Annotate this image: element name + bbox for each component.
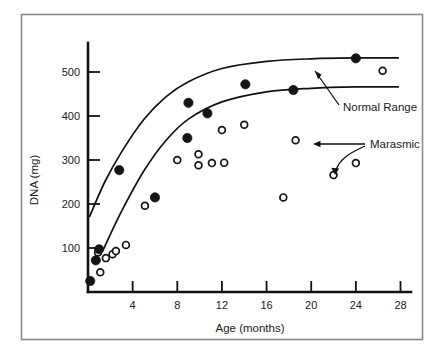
marasmic-data-point — [208, 160, 215, 167]
marasmic-data-point — [123, 242, 130, 249]
marasmic-data-point — [379, 67, 386, 74]
marasmic-data-point — [195, 151, 202, 158]
y-tick-label-300: 300 — [62, 154, 80, 166]
normal-data-point — [115, 166, 124, 175]
y-tick-label-400: 400 — [62, 110, 80, 122]
normal-data-point — [289, 85, 298, 94]
x-axis-title: Age (months) — [215, 322, 284, 334]
figure-root: 100200300400500 481216202428 DNA (mg) Ag… — [0, 0, 442, 352]
normal-data-point — [241, 80, 250, 89]
marasmic-data-point — [113, 248, 120, 255]
x-tick-label-20: 20 — [305, 299, 317, 311]
x-tick-label-12: 12 — [216, 299, 228, 311]
dna-vs-age-scatter-chart: 100200300400500 481216202428 DNA (mg) Ag… — [0, 0, 442, 352]
y-tick-label-500: 500 — [62, 66, 80, 78]
normal-data-point — [86, 276, 95, 285]
x-tick-label-16: 16 — [260, 299, 272, 311]
marasmic-data-point — [221, 159, 228, 166]
normal-data-point — [203, 109, 212, 118]
marasmic-data-point — [292, 137, 299, 144]
normal-data-point — [95, 245, 104, 254]
marasmic-data-point — [195, 162, 202, 169]
y-tick-label-100: 100 — [62, 242, 80, 254]
normal-data-point — [150, 193, 159, 202]
marasmic-data-point — [102, 255, 109, 262]
x-tick-label-24: 24 — [350, 299, 362, 311]
marasmic-data-point — [280, 194, 287, 201]
marasmic-data-point — [174, 157, 181, 164]
normal-range-label: Normal Range — [343, 101, 417, 113]
normal-data-point — [183, 133, 192, 142]
normal-data-point — [351, 54, 360, 63]
marasmic-data-point — [142, 202, 149, 209]
marasmic-data-point — [219, 127, 226, 134]
x-tick-label-4: 4 — [130, 299, 136, 311]
y-tick-label-200: 200 — [62, 198, 80, 210]
x-tick-label-8: 8 — [174, 299, 180, 311]
marasmic-data-point — [241, 121, 248, 128]
marasmic-label: Marasmic — [370, 138, 420, 150]
y-axis-title: DNA (mg) — [28, 155, 40, 206]
marasmic-data-point — [352, 160, 359, 167]
normal-data-point — [91, 256, 100, 265]
marasmic-data-point — [97, 269, 104, 276]
x-tick-label-28: 28 — [394, 299, 406, 311]
normal-data-point — [184, 98, 193, 107]
